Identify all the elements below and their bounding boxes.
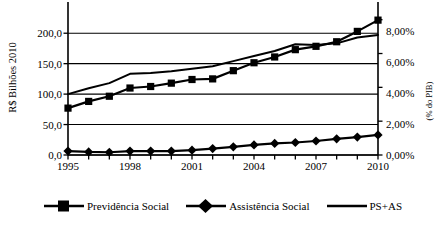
legend-label-previdencia-social: Previdência Social bbox=[87, 201, 169, 212]
legend-item-previdencia-social: Previdência Social bbox=[43, 199, 169, 213]
series-line-2 bbox=[68, 35, 378, 94]
data-point-marker bbox=[188, 76, 195, 83]
legend-marker-line-icon bbox=[326, 199, 368, 213]
chart-figure: R$ Bilhões 2010 (% do PIB) 0,0 50,0 100,… bbox=[0, 0, 445, 226]
plot-area bbox=[50, 0, 396, 175]
legend-marker-diamond-icon bbox=[185, 199, 227, 213]
data-point-marker bbox=[209, 75, 216, 82]
data-point-marker bbox=[353, 132, 362, 141]
data-point-marker bbox=[230, 67, 237, 74]
data-point-marker bbox=[229, 142, 238, 151]
y-axis-left-title: R$ Bilhões 2010 bbox=[7, 18, 18, 138]
data-point-marker bbox=[250, 59, 257, 66]
data-point-marker bbox=[126, 84, 133, 91]
data-point-marker bbox=[147, 83, 154, 90]
chart-legend: Previdência Social Assistência Social PS… bbox=[0, 196, 445, 216]
data-point-marker bbox=[291, 138, 300, 147]
data-point-marker bbox=[106, 93, 113, 100]
legend-label-ps-as: PS+AS bbox=[370, 201, 403, 212]
data-point-marker bbox=[354, 28, 361, 35]
data-point-marker bbox=[311, 136, 320, 145]
data-point-marker bbox=[271, 53, 278, 60]
data-point-marker bbox=[292, 46, 299, 53]
data-point-marker bbox=[312, 43, 319, 50]
data-point-marker bbox=[249, 140, 258, 149]
legend-label-assistencia-social: Assistência Social bbox=[229, 201, 309, 212]
legend-marker-square-icon bbox=[43, 199, 85, 213]
legend-item-assistencia-social: Assistência Social bbox=[185, 199, 309, 213]
legend-item-ps-as: PS+AS bbox=[326, 199, 403, 213]
plot-svg bbox=[50, 0, 396, 175]
axis-lines bbox=[68, 2, 378, 155]
data-point-marker bbox=[187, 146, 196, 155]
data-point-marker bbox=[168, 80, 175, 87]
data-point-marker bbox=[85, 98, 92, 105]
data-series-layer bbox=[63, 17, 382, 157]
data-point-marker bbox=[208, 144, 217, 153]
data-point-marker bbox=[332, 134, 341, 143]
series-line-1 bbox=[68, 135, 378, 152]
data-point-marker bbox=[270, 139, 279, 148]
